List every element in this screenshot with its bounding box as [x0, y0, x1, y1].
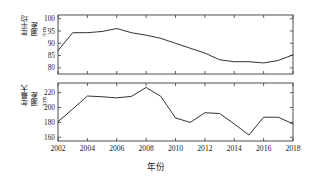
x-axis-tick-label: 2002	[50, 144, 65, 153]
top-data-line	[58, 29, 293, 63]
top-panel-plot: 80859095100	[44, 14, 293, 74]
figure-container: 年平均 潮差 /cm 年最大 潮差 /cm 80859095100 160180…	[0, 0, 311, 181]
top-panel-ylabel-line2: 潮差	[29, 16, 40, 37]
x-axis-tick-label: 2008	[139, 144, 154, 153]
top-ytick-label: 95	[48, 27, 56, 36]
top-panel-ylabel: 年平均 潮差 /cm	[19, 16, 47, 37]
top-ytick-label: 85	[48, 51, 56, 60]
x-axis-tick-label: 2010	[168, 144, 183, 153]
x-axis-tick-label: 2012	[197, 144, 212, 153]
top-ytick-label: 90	[48, 39, 56, 48]
bottom-panel-plot: 1601802002202002200420062008201020122014…	[44, 83, 301, 153]
bottom-ytick-label: 180	[44, 118, 55, 127]
top-panel-frame	[58, 15, 293, 74]
bottom-panel-ylabel-line2: 潮差	[29, 86, 40, 107]
bottom-ytick-label: 160	[44, 133, 55, 142]
top-panel-ylabel-unit: /cm	[40, 16, 47, 37]
top-ytick-label: 80	[48, 63, 56, 72]
bottom-panel-ylabel: 年最大 潮差 /cm	[19, 86, 47, 107]
x-axis-title: 年份	[0, 160, 311, 172]
bottom-panel-ylabel-unit: /cm	[40, 86, 47, 107]
x-axis-tick-label: 2006	[109, 144, 124, 153]
x-axis-tick-label: 2014	[227, 144, 242, 153]
x-axis-tick-label: 2016	[256, 144, 271, 153]
x-axis-tick-label: 2004	[80, 144, 95, 153]
bottom-panel-frame	[58, 83, 293, 141]
x-axis-tick-label: 2018	[285, 144, 300, 153]
bottom-data-line	[58, 87, 293, 135]
